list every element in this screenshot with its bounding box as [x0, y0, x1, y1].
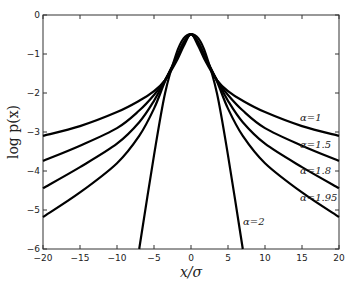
series-label: α=1 — [300, 112, 322, 123]
x-tick-label: 10 — [259, 253, 271, 263]
x-tick-label: 15 — [296, 253, 307, 263]
series-label: α=2 — [243, 216, 265, 227]
y-tick-label: −5 — [27, 205, 40, 215]
y-tick-label: −3 — [27, 127, 40, 137]
x-tick-label: −15 — [71, 253, 90, 263]
chart: −20−15−10−5051015200−1−2−3−4−5−6x/σlog p… — [0, 0, 355, 284]
curve-2 — [139, 34, 243, 249]
x-tick-label: 0 — [188, 253, 194, 263]
series-label: α=1.8 — [300, 165, 331, 176]
x-tick-label: 20 — [333, 253, 345, 263]
x-tick-label: −20 — [34, 253, 53, 263]
x-tick-label: 5 — [225, 253, 231, 263]
curve-1-8 — [43, 34, 339, 188]
y-tick-label: −4 — [27, 166, 41, 176]
y-axis-label: log p(x) — [5, 105, 21, 159]
x-tick-label: −10 — [108, 253, 127, 263]
plot-frame — [43, 15, 339, 249]
x-tick-label: −5 — [147, 253, 160, 263]
curve-1-5 — [43, 34, 339, 161]
x-axis-label: x/σ — [180, 264, 203, 280]
series-label: α=1.5 — [300, 139, 331, 150]
curve-1 — [43, 34, 339, 136]
y-tick-label: −1 — [27, 49, 40, 59]
y-tick-label: 0 — [34, 10, 40, 20]
y-tick-label: −2 — [27, 88, 40, 98]
curve-1-95 — [43, 34, 339, 217]
series-label: α=1.95 — [300, 192, 337, 203]
y-tick-label: −6 — [27, 244, 41, 254]
